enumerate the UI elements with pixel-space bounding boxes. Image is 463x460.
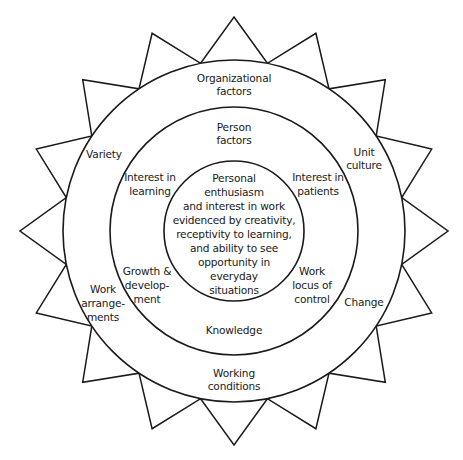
label-line: Variety — [86, 148, 122, 160]
label-change: Change — [344, 296, 383, 308]
label-line: Interest in — [292, 171, 344, 183]
label-line: arrange- — [81, 297, 125, 309]
label-line: Growth & — [123, 265, 171, 277]
label-line: learning — [129, 185, 171, 197]
label-knowledge: Knowledge — [206, 324, 262, 336]
label-line: locus of — [292, 279, 332, 291]
label-line: Work — [299, 265, 326, 277]
label-line: Work — [90, 283, 117, 295]
label-line: conditions — [208, 380, 261, 392]
label-line: Unit — [354, 146, 375, 158]
label-line: enthusiasm — [204, 186, 264, 198]
label-line: Personal — [212, 172, 255, 184]
label-line: and interest in work — [183, 200, 286, 212]
label-line: factors — [216, 85, 251, 97]
label-line: Person — [217, 121, 251, 133]
label-line: evidenced by creativity, — [173, 214, 296, 226]
label-line: receptivity to learning, — [176, 228, 292, 240]
label-variety: Variety — [86, 148, 122, 160]
label-person-factors: Person factors — [216, 121, 251, 146]
label-line: opportunity in — [198, 256, 270, 268]
label-line: and ability to see — [190, 242, 278, 254]
label-line: develop- — [125, 279, 170, 291]
label-line: Working — [213, 367, 255, 379]
label-line: Organizational — [197, 72, 271, 84]
label-line: situations — [209, 284, 259, 296]
label-line: ment — [134, 293, 161, 305]
motivation-diagram: Organizational factors Person factors Pe… — [0, 0, 463, 460]
label-line: Interest in — [124, 171, 176, 183]
label-working-conditions: Working conditions — [208, 367, 261, 392]
label-line: patients — [297, 185, 339, 197]
label-line: culture — [346, 159, 382, 171]
label-line: ments — [87, 311, 119, 323]
label-line: factors — [216, 134, 251, 146]
label-line: control — [294, 293, 329, 305]
label-line: everyday — [210, 270, 258, 282]
label-line: Knowledge — [206, 324, 262, 336]
label-line: Change — [344, 296, 383, 308]
